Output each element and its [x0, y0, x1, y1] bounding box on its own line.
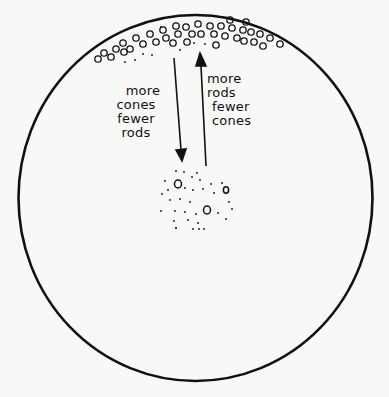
label-line: rods	[106, 126, 166, 140]
label-line: rods	[207, 86, 267, 100]
label-line: more	[207, 72, 267, 86]
diagram-svg	[0, 0, 389, 397]
arrowhead-down	[176, 149, 186, 161]
peripheral-cones	[95, 17, 283, 62]
label-line: fewer	[207, 100, 267, 114]
arrow-up	[201, 66, 206, 166]
retina-diagram: more cones fewer rods more rods fewer co…	[0, 0, 389, 397]
eye-outline	[19, 15, 373, 381]
label-line: fewer	[106, 112, 166, 126]
label-line: cones	[207, 114, 267, 128]
label-line: more	[106, 84, 166, 98]
label-more-rods-fewer-cones: more rods fewer cones	[207, 72, 267, 128]
label-more-cones-fewer-rods: more cones fewer rods	[106, 84, 166, 140]
arrow-down	[174, 58, 181, 150]
arrowhead-up	[196, 53, 206, 66]
label-line: cones	[106, 98, 166, 112]
fovea-cones	[175, 180, 229, 214]
fovea-rods	[160, 170, 233, 230]
arrows	[174, 53, 206, 166]
